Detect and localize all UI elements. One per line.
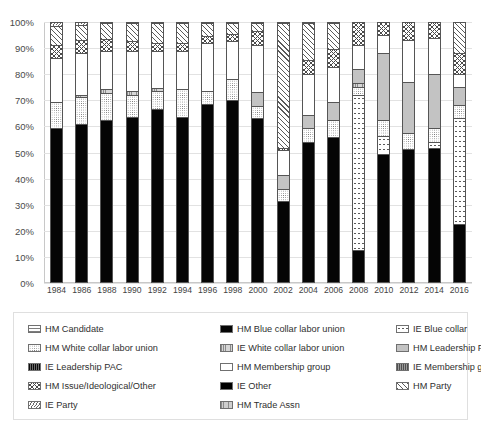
bar-segment — [454, 119, 465, 225]
legend-item[interactable]: HM Blue collar labor union — [220, 324, 396, 334]
legend-item[interactable]: HM Candidate — [28, 324, 220, 334]
bar-segment — [101, 52, 112, 91]
legend-label: HM White collar labor union — [45, 343, 158, 353]
legend-item[interactable]: IE Membership group — [396, 362, 481, 372]
bar-segment — [454, 54, 465, 75]
bar-segment — [378, 36, 389, 54]
legend-item[interactable]: IE Blue collar — [396, 324, 481, 334]
x-tick-label: 1994 — [170, 285, 195, 305]
bar-segment — [202, 105, 213, 282]
legend-swatch-icon — [220, 363, 233, 371]
legend-item[interactable]: HM Trade Assn — [220, 400, 396, 410]
bar-segment — [51, 46, 62, 59]
y-tick-label: 10% — [0, 251, 34, 262]
bar-segment — [303, 24, 314, 60]
stacked-bar[interactable] — [75, 22, 88, 283]
x-tick-label: 2012 — [396, 285, 421, 305]
legend-item[interactable]: HM Issue/Ideological/Other — [28, 381, 220, 391]
bar-column[interactable] — [396, 22, 421, 283]
bar-segment — [454, 75, 465, 88]
bar-segment — [177, 44, 188, 52]
legend-swatch-icon — [28, 382, 41, 390]
y-tick-label: 50% — [0, 147, 34, 158]
y-tick-label: 30% — [0, 199, 34, 210]
stacked-bar[interactable] — [226, 22, 239, 283]
bar-segment — [177, 24, 188, 43]
stacked-bar[interactable] — [50, 22, 63, 283]
y-tick-label: 70% — [0, 95, 34, 106]
bar-column[interactable] — [145, 22, 170, 283]
bar-segment — [152, 44, 163, 52]
bar-column[interactable] — [271, 22, 296, 283]
x-tick-label: 1998 — [220, 285, 245, 305]
bar-column[interactable] — [220, 22, 245, 283]
stacked-bar[interactable] — [352, 22, 365, 283]
legend-item[interactable]: IE Leadership PAC — [28, 362, 220, 372]
bar-segment — [177, 52, 188, 91]
bar-segment — [101, 40, 112, 52]
bar-segment — [127, 118, 138, 282]
bar-column[interactable] — [195, 22, 220, 283]
legend-label: HM Issue/Ideological/Other — [45, 381, 156, 391]
legend-swatch-icon — [396, 325, 409, 333]
bar-segment — [252, 119, 263, 282]
stacked-bar[interactable] — [126, 22, 139, 283]
bar-column[interactable] — [245, 22, 270, 283]
bar-segment — [353, 96, 364, 251]
stacked-bar[interactable] — [327, 22, 340, 283]
legend-label: IE White collar labor union — [237, 343, 344, 353]
legend-item[interactable]: HM Membership group — [220, 362, 396, 372]
bar-segment — [252, 23, 263, 24]
legend-label: HM Leadership PAC — [413, 343, 481, 353]
bar-column[interactable] — [120, 22, 145, 283]
legend-item[interactable]: HM Leadership PAC — [396, 343, 481, 353]
bar-column[interactable] — [296, 22, 321, 283]
x-tick-label: 2002 — [271, 285, 296, 305]
bar-column[interactable] — [447, 22, 472, 283]
x-tick-label: 2004 — [296, 285, 321, 305]
legend-item[interactable]: IE White collar labor union — [220, 343, 396, 353]
stacked-bar[interactable] — [453, 22, 466, 283]
bar-column[interactable] — [422, 22, 447, 283]
stacked-bar[interactable] — [428, 22, 441, 283]
stacked-bar[interactable] — [151, 22, 164, 283]
bar-segment — [378, 54, 389, 121]
stacked-bar[interactable] — [377, 22, 390, 283]
bar-segment — [353, 88, 364, 96]
legend-item[interactable]: HM White collar labor union — [28, 343, 220, 353]
bar-segment — [353, 70, 364, 84]
stacked-bar[interactable] — [251, 22, 264, 283]
legend-swatch-icon — [28, 344, 41, 352]
bar-column[interactable] — [69, 22, 94, 283]
bar-segment — [429, 23, 440, 39]
legend-swatch-icon — [396, 363, 409, 371]
stacked-bar[interactable] — [277, 22, 290, 283]
bar-segment — [278, 202, 289, 282]
stacked-bar[interactable] — [176, 22, 189, 283]
legend-item[interactable]: HM Party — [396, 381, 481, 391]
bar-segment — [429, 75, 440, 129]
bar-segment — [152, 23, 163, 24]
stacked-bar[interactable] — [201, 22, 214, 283]
bar-segment — [328, 24, 339, 50]
stacked-bar[interactable] — [302, 22, 315, 283]
legend-swatch-icon — [220, 325, 233, 333]
x-tick-label: 1990 — [120, 285, 145, 305]
bar-column[interactable] — [44, 22, 69, 283]
bar-column[interactable] — [321, 22, 346, 283]
legend-item[interactable]: IE Party — [28, 400, 220, 410]
legend-swatch-icon — [220, 382, 233, 390]
bar-column[interactable] — [94, 22, 119, 283]
bar-segment — [353, 46, 364, 69]
bar-column[interactable] — [371, 22, 396, 283]
bar-column[interactable] — [170, 22, 195, 283]
legend-label: IE Membership group — [413, 362, 481, 372]
y-gridline — [44, 283, 472, 284]
legend-item[interactable]: IE Other — [220, 381, 396, 391]
bar-segment — [378, 137, 389, 155]
bar-column[interactable] — [346, 22, 371, 283]
stacked-bar[interactable] — [100, 22, 113, 283]
stacked-bar[interactable] — [402, 22, 415, 283]
bar-segment — [202, 23, 213, 24]
bar-segment — [303, 23, 314, 24]
